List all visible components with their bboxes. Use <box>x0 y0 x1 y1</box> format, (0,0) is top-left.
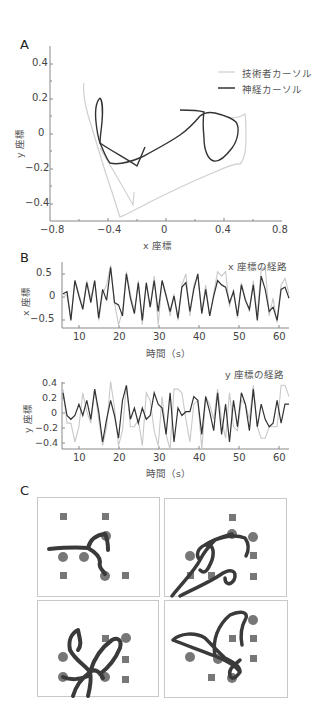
panel-c-snapshots <box>0 0 330 728</box>
workspace-snapshot-2 <box>165 499 287 597</box>
workspace-snapshot-3 <box>38 601 159 697</box>
workspace-snapshot-1 <box>38 498 160 597</box>
workspace-snapshot-4 <box>165 601 288 698</box>
